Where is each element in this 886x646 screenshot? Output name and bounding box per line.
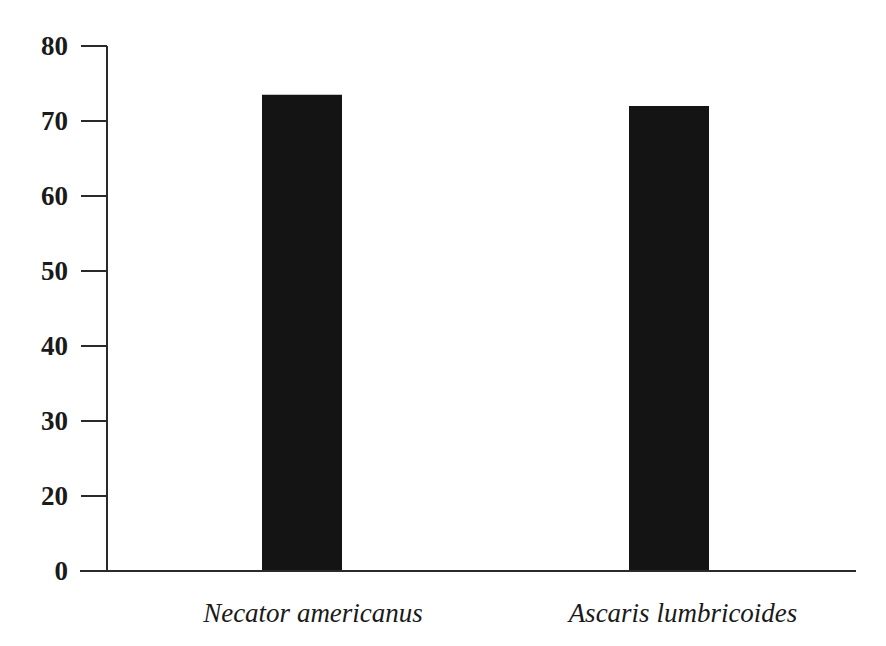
- x-category-label: Necator americanus: [202, 598, 423, 628]
- y-tick-label: 0: [55, 556, 69, 586]
- y-tick-label: 20: [41, 481, 68, 511]
- y-tick-label: 30: [41, 406, 68, 436]
- y-tick-label: 70: [41, 106, 68, 136]
- y-tick-label: 40: [41, 331, 68, 361]
- bar-chart: 020304050607080 Necator americanusAscari…: [0, 0, 886, 646]
- x-axis-labels: Necator americanusAscaris lumbricoides: [202, 598, 797, 628]
- y-tick-label: 60: [41, 181, 68, 211]
- bars: [262, 95, 709, 571]
- bar: [262, 95, 342, 571]
- x-category-label: Ascaris lumbricoides: [567, 598, 798, 628]
- y-axis: 020304050607080: [41, 31, 107, 586]
- y-tick-label: 50: [41, 256, 68, 286]
- y-tick-label: 80: [41, 31, 68, 61]
- bar: [629, 106, 709, 571]
